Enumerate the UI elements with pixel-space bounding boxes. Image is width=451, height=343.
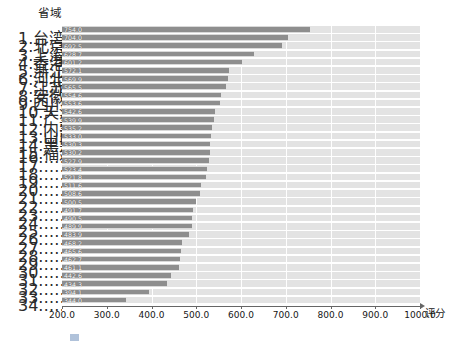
bar-value-label: 465.6 (64, 247, 82, 254)
bar-row[interactable]: 553.6 (62, 100, 420, 107)
bar-row[interactable]: 704.0 (62, 34, 420, 41)
x-axis-tick-label: 600.0 (228, 310, 254, 320)
bar-value-label: 530.3 (64, 141, 82, 148)
bar[interactable] (62, 182, 201, 189)
bar-row[interactable]: 601.2 (62, 59, 420, 66)
plot-area: 754.0704.0692.5628.7601.2572.1569.9565.5… (62, 26, 420, 305)
bar-row[interactable]: 465.6 (62, 248, 420, 255)
x-axis-tick-label: 300.0 (94, 310, 120, 320)
x-axis-tick-mark (152, 306, 153, 309)
bar-value-label: 754.0 (64, 26, 82, 33)
bar-value-label: 483.9 (64, 231, 82, 238)
bar-value-label: 491.7 (64, 206, 82, 213)
bar[interactable] (62, 34, 288, 41)
bar-value-label: 521.8 (64, 173, 82, 180)
row-separator (62, 303, 420, 305)
bar-value-label: 539.9 (64, 116, 82, 123)
bar-row[interactable]: 434.3 (62, 280, 420, 287)
figure-caption (70, 332, 83, 342)
x-axis-tick-mark (420, 306, 421, 309)
bar-row[interactable]: 572.1 (62, 67, 420, 74)
bar[interactable] (62, 124, 212, 131)
bar-value-label: 572.1 (64, 67, 82, 74)
bar-row[interactable]: 565.5 (62, 83, 420, 90)
bar-row[interactable]: 569.9 (62, 75, 420, 82)
bar-row[interactable]: 754.0 (62, 26, 420, 33)
category-labels: 1.台湾2.北京3.上海4.香港5.浙江6.河北7.江苏8.安徽9.四川10.天… (18, 26, 62, 305)
bar-value-label: 468.2 (64, 239, 82, 246)
bar[interactable] (62, 157, 209, 164)
bar-row[interactable]: 394.1 (62, 289, 420, 296)
bar-row[interactable]: 511.6 (62, 182, 420, 189)
x-axis-tick-label: 700.0 (273, 310, 299, 320)
bar-row[interactable]: 500.5 (62, 198, 420, 205)
bar-value-label: 490.5 (64, 215, 82, 222)
bar[interactable] (62, 92, 221, 99)
bar-value-label: 461.1 (64, 264, 82, 271)
bar-value-label: 500.5 (64, 198, 82, 205)
bar-chart: 省域 754.0704.0692.5628.7601.2572.1569.956… (0, 0, 451, 343)
bar-row[interactable]: 344.0 (62, 297, 420, 304)
bar-row[interactable]: 530.2 (62, 149, 420, 156)
bar-row[interactable]: 530.3 (62, 141, 420, 148)
bar-row[interactable]: 461.1 (62, 264, 420, 271)
bar[interactable] (62, 83, 226, 90)
bar[interactable] (62, 141, 210, 148)
x-axis-title: 评分 (425, 305, 445, 320)
bar-row[interactable]: 533.0 (62, 133, 420, 140)
bar-row[interactable]: 542.6 (62, 108, 420, 115)
bar[interactable] (62, 133, 211, 140)
x-axis-tick-mark (375, 306, 376, 309)
bar-row[interactable]: 521.8 (62, 174, 420, 181)
x-axis-tick-mark (196, 306, 197, 309)
bar-value-label: 535.2 (64, 124, 82, 131)
bar[interactable] (62, 26, 310, 33)
bar-row[interactable]: 539.9 (62, 116, 420, 123)
bar-value-label: 434.3 (64, 280, 82, 287)
bar-row[interactable]: 468.2 (62, 239, 420, 246)
bar-value-label: 628.7 (64, 50, 82, 57)
bar-value-label: 489.9 (64, 223, 82, 230)
bar-row[interactable]: 442.6 (62, 272, 420, 279)
bar-row[interactable]: 523.4 (62, 166, 420, 173)
bar-row[interactable]: 628.7 (62, 51, 420, 58)
bar[interactable] (62, 174, 206, 181)
bar[interactable] (62, 116, 214, 123)
bar[interactable] (62, 51, 254, 58)
bar-value-label: 554.6 (64, 91, 82, 98)
x-axis-tick-label: 800.0 (318, 310, 344, 320)
x-axis-tick-label: 400.0 (139, 310, 165, 320)
bar-row[interactable]: 508.6 (62, 190, 420, 197)
bar[interactable] (62, 100, 220, 107)
bar-row[interactable]: 491.7 (62, 207, 420, 214)
bar-row[interactable]: 462.7 (62, 256, 420, 263)
x-axis-tick-label: 900.0 (362, 310, 388, 320)
bar[interactable] (62, 198, 196, 205)
bar-value-label: 601.2 (64, 59, 82, 66)
bar-value-label: 553.6 (64, 100, 82, 107)
bar[interactable] (62, 190, 200, 197)
bar[interactable] (62, 42, 282, 49)
bar-row[interactable]: 489.9 (62, 223, 420, 230)
bar[interactable] (62, 59, 242, 66)
x-axis-tick-label: 200.0 (49, 310, 75, 320)
bar-value-label: 523.4 (64, 165, 82, 172)
bar[interactable] (62, 75, 228, 82)
bar-value-label: 442.6 (64, 272, 82, 279)
x-axis-tick-mark (62, 306, 63, 309)
bar-row[interactable]: 692.5 (62, 42, 420, 49)
bar-row[interactable]: 490.5 (62, 215, 420, 222)
gridline (420, 26, 421, 305)
bar-row[interactable]: 554.6 (62, 92, 420, 99)
bar-row[interactable]: 535.2 (62, 124, 420, 131)
bar[interactable] (62, 149, 210, 156)
bar[interactable] (62, 67, 229, 74)
bar-row[interactable]: 527.9 (62, 157, 420, 164)
x-axis-tick-mark (286, 306, 287, 309)
bar[interactable] (62, 166, 207, 173)
bar[interactable] (62, 108, 215, 115)
bar-row[interactable]: 483.9 (62, 231, 420, 238)
bar-value-label: 394.1 (64, 288, 82, 295)
bar-value-label: 462.7 (64, 256, 82, 263)
bar-value-label: 527.9 (64, 157, 82, 164)
